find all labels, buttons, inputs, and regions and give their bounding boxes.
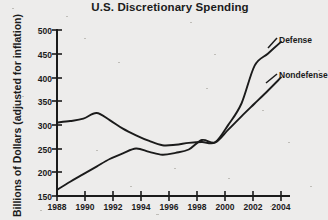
series-line-nondefense bbox=[57, 77, 281, 189]
series-line-defense bbox=[57, 42, 281, 146]
leader-line-nondefense bbox=[266, 74, 277, 83]
